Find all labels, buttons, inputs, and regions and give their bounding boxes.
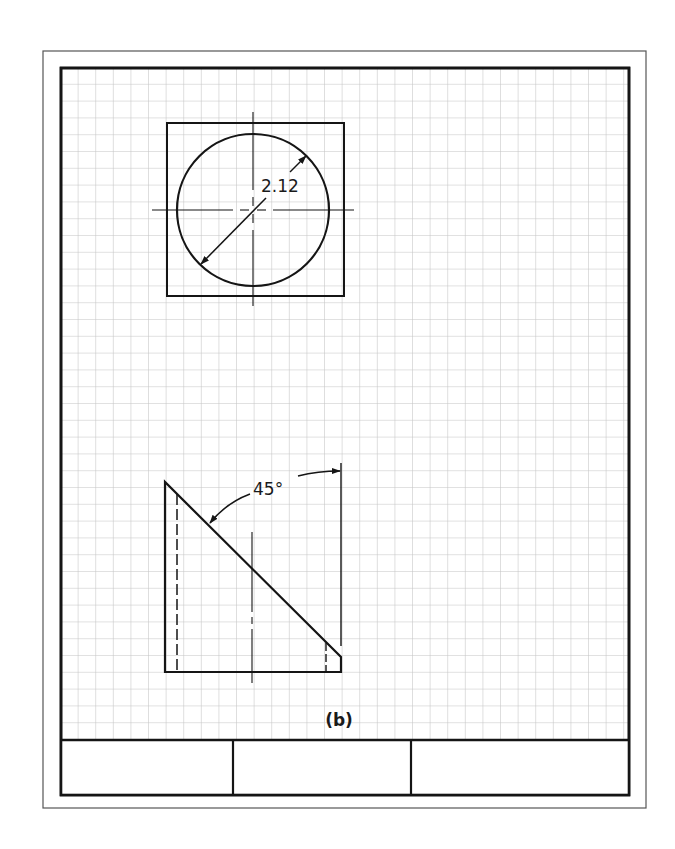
title-block-cell-1[interactable] xyxy=(63,742,231,793)
figure-label: (b) xyxy=(325,710,353,730)
title-block-cell-2[interactable] xyxy=(235,742,409,793)
drawing-sheet: 2.12 45° (b) xyxy=(0,0,675,849)
angle-label: 45° xyxy=(253,479,283,499)
diameter-label: 2.12 xyxy=(261,176,299,196)
title-block-cell-3[interactable] xyxy=(413,742,627,793)
